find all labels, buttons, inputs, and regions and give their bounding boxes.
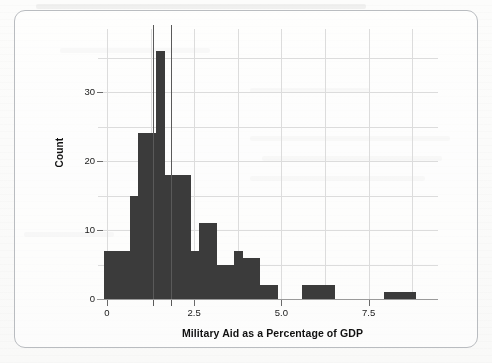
x-tick-label: 5.0 (264, 307, 298, 318)
y-tick-label: 20 (69, 155, 95, 166)
x-tick-label: 7.5 (352, 307, 386, 318)
y-tick-label: 30 (69, 86, 95, 97)
page-bleed-artifact (36, 4, 366, 9)
y-tick-label: 0 (69, 293, 95, 304)
x-tick-label: 2.5 (177, 307, 211, 318)
x-tick-label: 0 (90, 307, 124, 318)
y-tick-label: 10 (69, 224, 95, 235)
y-axis-label: Count (54, 154, 65, 168)
x-axis-label: Military Aid as a Percentage of GDP (107, 327, 438, 339)
